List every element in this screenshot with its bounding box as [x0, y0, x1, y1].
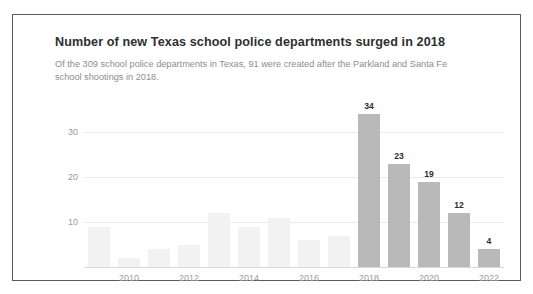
bar[interactable] — [418, 182, 440, 268]
bar[interactable] — [178, 245, 200, 268]
bar[interactable] — [148, 249, 170, 267]
bar[interactable] — [388, 164, 410, 268]
bar-group: 192020 — [414, 71, 444, 271]
bar[interactable] — [208, 213, 230, 267]
y-axis-tick-label: 30 — [51, 127, 78, 137]
chart-bars: 2010201220142016342018231920201242022 — [84, 71, 504, 271]
x-axis-tick-label: 2022 — [479, 273, 499, 283]
bar-group: 2012 — [174, 71, 204, 271]
bar-value-label: 34 — [364, 101, 374, 111]
bar[interactable] — [118, 258, 140, 267]
y-axis-tick-label: 20 — [51, 172, 78, 182]
bar-group — [204, 71, 234, 271]
bar-group: 2014 — [234, 71, 264, 271]
bar[interactable] — [448, 213, 470, 267]
bar-group: 23 — [384, 71, 414, 271]
x-axis-tick-label: 2018 — [359, 273, 379, 283]
bar-group: 42022 — [474, 71, 504, 271]
bar[interactable] — [88, 227, 110, 268]
x-axis-tick-label: 2016 — [299, 273, 319, 283]
bar-group — [144, 71, 174, 271]
x-axis-tick-label: 2014 — [239, 273, 259, 283]
bar-group: 2016 — [294, 71, 324, 271]
bar[interactable] — [298, 240, 320, 267]
bar[interactable] — [358, 114, 380, 267]
bar-group — [264, 71, 294, 271]
bar-group: 2010 — [114, 71, 144, 271]
bar-group: 12 — [444, 71, 474, 271]
chart-card: Number of new Texas school police depart… — [12, 14, 521, 281]
bar-group: 342018 — [354, 71, 384, 271]
bar-group — [84, 71, 114, 271]
page-title: Number of new Texas school police depart… — [55, 35, 495, 50]
bar-value-label: 12 — [454, 200, 464, 210]
bar-value-label: 19 — [424, 169, 434, 179]
x-axis-tick-label: 2012 — [179, 273, 199, 283]
bar[interactable] — [328, 236, 350, 268]
x-axis-tick-label: 2020 — [419, 273, 439, 283]
bar[interactable] — [268, 218, 290, 268]
bar-value-label: 4 — [487, 236, 492, 246]
bar-group — [324, 71, 354, 271]
x-axis-tick-label: 2010 — [119, 273, 139, 283]
screenshot-root: Number of new Texas school police depart… — [0, 0, 533, 294]
bar-chart-plot: 102030 201020122014201634201823192020124… — [51, 71, 506, 271]
y-axis-tick-label: 10 — [51, 217, 78, 227]
bar-value-label: 23 — [394, 151, 404, 161]
bar[interactable] — [478, 249, 500, 267]
bar[interactable] — [238, 227, 260, 268]
